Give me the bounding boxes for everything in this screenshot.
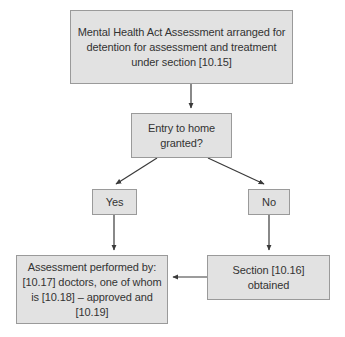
node-no: No: [248, 189, 290, 215]
node-yes: Yes: [92, 189, 137, 215]
node-assessment-arranged: Mental Health Act Assessment arranged fo…: [70, 10, 293, 84]
node-assessment-performed: Assessment performed by: [10.17] doctors…: [16, 255, 168, 324]
node-entry-granted: Entry to home granted?: [131, 113, 232, 158]
connector-entry-to-no: [208, 158, 264, 184]
flowchart-canvas: Mental Health Act Assessment arranged fo…: [0, 0, 345, 337]
node-section-obtained: Section [10.16] obtained: [207, 255, 330, 300]
connector-entry-to-yes: [116, 158, 157, 184]
